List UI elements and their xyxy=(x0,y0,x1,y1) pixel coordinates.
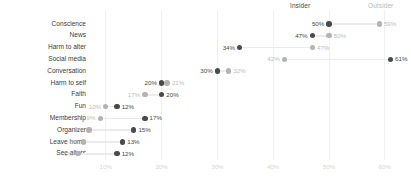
value-label-insider: 17% xyxy=(150,114,162,122)
value-label-insider: 61% xyxy=(395,55,407,63)
connector-line xyxy=(89,129,134,131)
connector-line xyxy=(329,23,379,25)
dot-insider[interactable] xyxy=(120,139,125,144)
value-label-outsider: 42% xyxy=(267,55,279,63)
connector-line xyxy=(78,153,117,155)
data-row: 30%32% xyxy=(0,66,411,76)
dot-outsider[interactable] xyxy=(164,80,169,85)
dot-outsider[interactable] xyxy=(103,104,108,109)
data-row: 12%10% xyxy=(0,102,411,112)
xaxis-tick-label-10pct: 10% xyxy=(86,163,126,170)
data-row: 61%42% xyxy=(0,54,411,64)
value-label-insider: 15% xyxy=(138,126,150,134)
dot-insider[interactable] xyxy=(215,68,220,73)
xaxis-tick-label-50pct: 50% xyxy=(309,163,349,170)
data-row: 47%50% xyxy=(0,31,411,41)
value-label-outsider: 59% xyxy=(384,20,396,28)
value-label-outsider: 47% xyxy=(317,44,329,52)
dot-insider[interactable] xyxy=(159,92,164,97)
dot-outsider[interactable] xyxy=(86,127,91,132)
connector-line xyxy=(284,59,390,61)
value-label-outsider: 5% xyxy=(64,150,73,158)
dot-insider[interactable] xyxy=(388,57,393,62)
value-label-insider: 30% xyxy=(200,67,212,75)
xaxis-tick-label-60pct: 60% xyxy=(365,163,405,170)
dumbbell-chart: InsiderOutsiderConscience50%59%News47%50… xyxy=(0,0,411,180)
value-label-outsider: 21% xyxy=(172,79,184,87)
dot-insider[interactable] xyxy=(142,116,147,121)
legend-label-insider: Insider xyxy=(290,2,310,9)
data-row: 34%47% xyxy=(0,43,411,53)
connector-line xyxy=(240,47,313,49)
connector-line xyxy=(83,141,122,143)
value-label-insider: 20% xyxy=(166,91,178,99)
dot-insider[interactable] xyxy=(326,21,331,26)
dot-insider[interactable] xyxy=(131,127,136,132)
dot-outsider[interactable] xyxy=(81,139,86,144)
data-row: 13%6% xyxy=(0,137,411,147)
dot-outsider[interactable] xyxy=(142,92,147,97)
dot-insider[interactable] xyxy=(114,104,119,109)
data-row: 12%5% xyxy=(0,149,411,159)
legend-label-outsider: Outsider xyxy=(368,2,393,9)
value-label-insider: 47% xyxy=(295,32,307,40)
dot-outsider[interactable] xyxy=(98,116,103,121)
value-label-outsider: 7% xyxy=(75,126,84,134)
value-label-insider: 34% xyxy=(223,44,235,52)
value-label-outsider: 17% xyxy=(128,91,140,99)
dot-insider[interactable] xyxy=(310,33,315,38)
dot-insider[interactable] xyxy=(237,45,242,50)
dot-insider[interactable] xyxy=(159,80,164,85)
value-label-outsider: 50% xyxy=(334,32,346,40)
data-row: 17%9% xyxy=(0,113,411,123)
dot-outsider[interactable] xyxy=(75,151,80,156)
data-row: 50%59% xyxy=(0,19,411,29)
dot-outsider[interactable] xyxy=(310,45,315,50)
value-label-outsider: 6% xyxy=(70,138,79,146)
value-label-insider: 12% xyxy=(122,103,134,111)
dot-outsider[interactable] xyxy=(377,21,382,26)
value-label-outsider: 32% xyxy=(233,67,245,75)
xaxis-tick-label-20pct: 20% xyxy=(142,163,182,170)
dot-insider[interactable] xyxy=(114,151,119,156)
connector-line xyxy=(100,118,145,120)
value-label-insider: 12% xyxy=(122,150,134,158)
value-label-insider: 13% xyxy=(127,138,139,146)
value-label-outsider: 9% xyxy=(87,114,96,122)
data-row: 15%7% xyxy=(0,125,411,135)
value-label-insider: 20% xyxy=(145,79,157,87)
xaxis-tick-label-30pct: 30% xyxy=(197,163,237,170)
data-row: 20%21% xyxy=(0,78,411,88)
dot-outsider[interactable] xyxy=(226,68,231,73)
xaxis-tick-label-40pct: 40% xyxy=(253,163,293,170)
data-row: 20%17% xyxy=(0,90,411,100)
value-label-outsider: 10% xyxy=(89,103,101,111)
dot-outsider[interactable] xyxy=(326,33,331,38)
value-label-insider: 50% xyxy=(312,20,324,28)
dot-outsider[interactable] xyxy=(282,57,287,62)
